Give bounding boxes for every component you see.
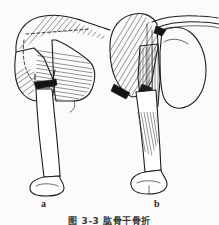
figure-panel-b (100, 0, 219, 200)
acromion-wedge-b (154, 26, 166, 36)
clavicle-lower-b (156, 22, 219, 28)
panel-label-b: b (154, 199, 160, 209)
humeral-shaft-b (136, 90, 161, 172)
figure-page: a b 图 3-3 肱骨干骨折 (0, 0, 219, 225)
humerus-diagram-b (100, 0, 219, 200)
distal-humerus-condyle-a (30, 176, 64, 196)
humerus-diagram-a (0, 0, 112, 200)
scapula-outline-b (160, 27, 206, 108)
clavicle-upper-b (152, 16, 218, 22)
fracture-line-a-notch (52, 79, 57, 86)
figure-caption: 图 3-3 肱骨干骨折 (0, 216, 219, 225)
deltoid-hatching-a (12, 10, 108, 86)
fracture-line-b (111, 84, 130, 99)
humeral-shaft-a (36, 89, 60, 177)
lower-deltoid-hatching-a (8, 62, 34, 102)
scapula-border-a (70, 101, 75, 112)
scapula-inner-edge-b (164, 39, 188, 44)
shoulder-contour-a (16, 15, 110, 52)
figure-panel-a (0, 0, 112, 200)
panel-label-a: a (41, 199, 46, 209)
clavicle-thin-b (160, 26, 219, 31)
